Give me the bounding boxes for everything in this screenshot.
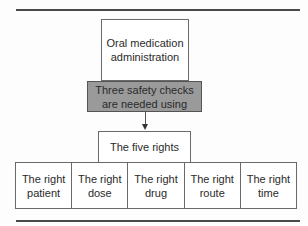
five-rights-label: The five rights [110, 140, 179, 154]
arrow-down-icon [142, 124, 148, 130]
right-patient: The rightpatient [16, 163, 72, 208]
bottom-rule [16, 220, 300, 222]
right-time: The righttime [241, 163, 297, 208]
right-label: The right [247, 172, 290, 186]
right-value: route [191, 186, 234, 200]
root-line1: Oral medication [106, 36, 183, 50]
right-value: time [247, 186, 290, 200]
right-label: The right [191, 172, 234, 186]
right-label: The right [78, 172, 121, 186]
right-drug: The rightdrug [128, 163, 184, 208]
five-rights-box: The five rights [98, 131, 191, 163]
right-dose: The rightdose [72, 163, 128, 208]
checks-line2: are needed using [95, 97, 193, 111]
right-value: patient [22, 186, 65, 200]
checks-line1: Three safety checks [95, 83, 193, 97]
rights-row: The rightpatient The rightdose The right… [15, 162, 297, 209]
root-line2: administration [106, 50, 183, 64]
right-label: The right [134, 172, 177, 186]
right-route: The rightroute [185, 163, 241, 208]
oral-medication-box: Oral medication administration [101, 19, 189, 81]
right-value: dose [78, 186, 121, 200]
right-label: The right [22, 172, 65, 186]
safety-checks-box: Three safety checks are needed using [87, 81, 202, 112]
right-value: drug [134, 186, 177, 200]
top-rule [16, 9, 300, 11]
